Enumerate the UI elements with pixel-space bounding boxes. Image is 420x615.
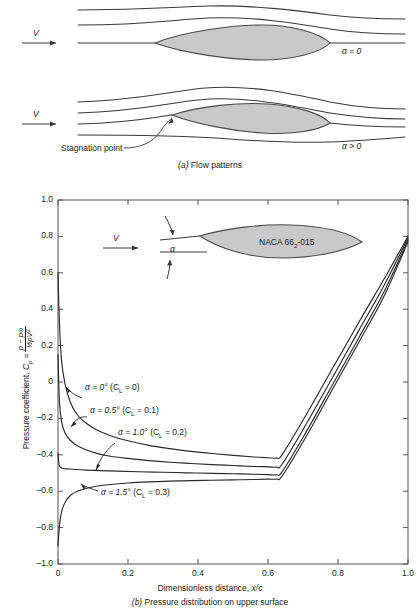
stagnation-point-label: Stagnation point	[61, 143, 122, 153]
annotation-alpha-0p5-cl: (CL = 0.1)	[122, 405, 159, 415]
y-axis-equals: =	[21, 353, 31, 358]
inset-airfoil-diagram	[103, 216, 362, 279]
annotation-alpha-1p5: α = 1.5° (CL = 0.3)	[101, 487, 170, 499]
y-tick-label: –0.6	[28, 485, 53, 495]
annotation-alpha-0-alpha: α = 0°	[85, 382, 108, 392]
velocity-label-top: V	[33, 28, 39, 38]
x-axis-title: Dimensionless distance, x/c	[0, 583, 420, 593]
y-axis-title-text: Pressure coefficient,	[21, 372, 31, 449]
y-axis-fraction-numerator: p − p∞	[17, 326, 26, 353]
airfoil-name-label: NACA 662-015	[259, 237, 314, 249]
panel-b-caption-marker: (b)	[132, 597, 142, 607]
airfoil-name-suffix: -015	[297, 237, 314, 247]
x-axis-title-text: Dimensionless distance,	[158, 583, 250, 593]
pressure-distribution-chart	[0, 190, 420, 610]
x-tick-label: 0	[49, 568, 67, 578]
y-axis-fraction-denominator: ½ρV²	[25, 326, 35, 353]
inset-chord-line	[160, 236, 200, 240]
annotation-alpha-0p5: α = 0.5° (CL = 0.1)	[90, 405, 159, 417]
y-tick-label: –0.8	[28, 522, 53, 532]
annotation-alpha-0p5-alpha: α = 0.5°	[90, 405, 120, 415]
velocity-arrow-top	[22, 40, 56, 45]
annotation-alpha-1p0: α = 1.0° (CL = 0.2)	[118, 427, 187, 439]
y-axis-fraction: p − p∞½ρV²	[17, 326, 35, 353]
streamline-top-1	[78, 6, 405, 19]
alpha-positive-case-label: α > 0	[342, 141, 361, 151]
panel-b-caption-text: Pressure distribution on upper surface	[145, 597, 289, 607]
panel-a-caption: (a) Flow patterns	[0, 160, 420, 170]
inset-velocity-label: V	[113, 233, 119, 243]
airfoil-shape-alphapos	[172, 103, 330, 133]
x-axis-symbol: x/c	[252, 583, 263, 593]
panel-a-caption-marker: (a)	[178, 160, 188, 170]
streamline-bot-3b	[330, 123, 405, 127]
y-tick-label: 0.8	[28, 230, 53, 240]
x-tick-label: 0.8	[329, 568, 347, 578]
figure-container: V V α = 0 α > 0 Stagnation point (a) Flo…	[0, 0, 420, 615]
panel-a-caption-text: Flow patterns	[191, 160, 242, 170]
velocity-label-bottom: V	[33, 109, 39, 119]
alpha-zero-case-label: α = 0	[342, 46, 361, 56]
curve-alpha-0p5	[58, 238, 408, 468]
inset-angle-label: α	[170, 244, 175, 254]
x-tick-label: 0.6	[259, 568, 277, 578]
x-tick-label: 1.0	[399, 568, 417, 578]
annotation-alpha-1p5-alpha: α = 1.5°	[101, 487, 131, 497]
airfoil-name-prefix: NACA 66	[259, 237, 294, 247]
panel-b-caption: (b) Pressure distribution on upper surfa…	[0, 597, 420, 607]
flow-patterns-diagram	[0, 0, 420, 155]
y-axis-title: Pressure coefficient, Cp =p − p∞½ρV²	[18, 292, 36, 482]
stagnation-leader	[124, 118, 174, 148]
curve-alpha-1p5	[58, 242, 408, 546]
velocity-arrow-bottom	[22, 121, 56, 126]
annotation-alpha-1p5-cl: (CL = 0.3)	[133, 487, 170, 497]
annotation-alpha-1p0-cl: (CL = 0.2)	[150, 427, 187, 437]
y-tick-label: 1.0	[28, 194, 53, 204]
y-tick-label: 0.6	[28, 267, 53, 277]
curve-annotation-leaders	[66, 387, 115, 491]
curve-alpha-1p0	[58, 240, 408, 475]
annotation-alpha-1p0-alpha: α = 1.0°	[118, 427, 148, 437]
annotation-alpha-0: α = 0° (CL = 0)	[85, 382, 140, 394]
streamline-bot-3	[78, 115, 172, 124]
annotation-alpha-0-cl: (CL = 0)	[110, 382, 140, 392]
airfoil-shape-alpha0	[155, 25, 330, 60]
x-tick-label: 0.4	[189, 568, 207, 578]
y-tick-label: –1.0	[28, 558, 53, 568]
y-axis-symbol: Cp	[21, 361, 31, 371]
x-tick-label: 0.2	[119, 568, 137, 578]
